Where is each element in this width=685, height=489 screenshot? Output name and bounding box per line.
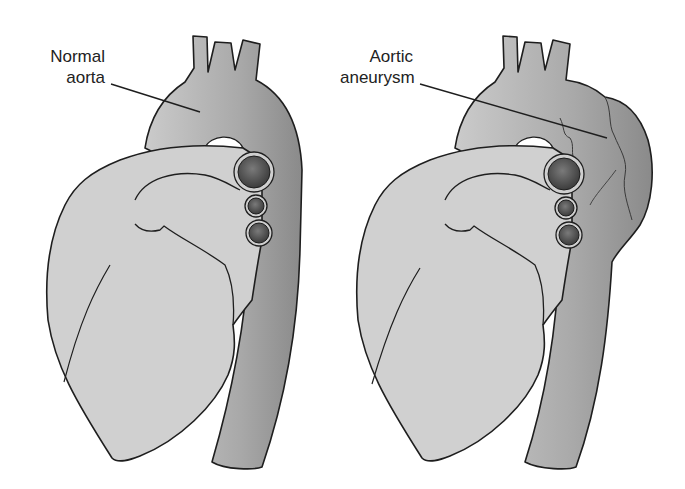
normal-aorta-panel xyxy=(47,36,302,469)
aorta-comparison-figure: Normal aorta Aortic aneurysm xyxy=(0,0,685,489)
aortic-aneurysm-label: Aortic aneurysm xyxy=(340,46,413,88)
aortic-aneurysm-label-line-2: aneurysm xyxy=(340,67,413,88)
aneurysm-panel xyxy=(357,36,652,469)
aortic-aneurysm-label-line-1: Aortic xyxy=(340,46,413,67)
normal-aorta-label-line-1: Normal xyxy=(20,46,105,67)
normal-aorta-label-line-2: aorta xyxy=(20,67,105,88)
normal-aorta-label: Normal aorta xyxy=(20,46,105,88)
